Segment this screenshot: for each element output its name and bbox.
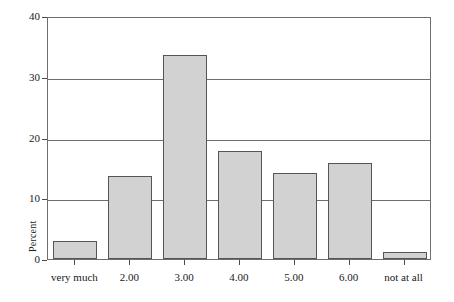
y-axis-title: Percent xyxy=(27,221,38,252)
y-tick-label: 20 xyxy=(10,133,40,144)
x-tick-mark xyxy=(294,260,295,265)
y-tick-label: 40 xyxy=(10,11,40,22)
bar xyxy=(328,163,372,259)
plot-area xyxy=(47,17,431,260)
bars-layer xyxy=(48,18,430,259)
bar xyxy=(163,55,207,259)
bar xyxy=(383,252,427,259)
y-tick-mark xyxy=(42,260,47,261)
x-tick-mark xyxy=(129,260,130,265)
x-tick-mark xyxy=(74,260,75,265)
bar-chart: Percent 010203040 very much2.003.004.005… xyxy=(0,0,454,302)
y-tick-label: 10 xyxy=(10,193,40,204)
bar xyxy=(218,151,262,259)
x-tick-mark xyxy=(404,260,405,265)
bar xyxy=(273,173,317,259)
x-tick-mark xyxy=(239,260,240,265)
y-tick-label: 0 xyxy=(10,254,40,265)
x-tick-mark xyxy=(349,260,350,265)
bar xyxy=(53,241,97,259)
x-tick-label: not at all xyxy=(367,271,440,283)
bar xyxy=(108,176,152,259)
x-tick-mark xyxy=(184,260,185,265)
y-tick-label: 30 xyxy=(10,72,40,83)
